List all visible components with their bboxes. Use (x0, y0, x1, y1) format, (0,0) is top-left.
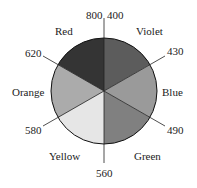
label-800: 800 (86, 9, 103, 21)
label-red: Red (55, 25, 73, 37)
label-green: Green (134, 150, 161, 162)
label-580: 580 (25, 124, 42, 136)
label-490: 490 (167, 124, 184, 136)
label-orange: Orange (12, 86, 44, 98)
label-620: 620 (25, 47, 42, 59)
label-violet: Violet (136, 25, 163, 37)
color-wheel-diagram: 800 400 430 490 560 580 620 Violet Blue … (0, 0, 197, 188)
label-yellow: Yellow (49, 150, 80, 162)
label-430: 430 (167, 45, 184, 57)
label-400: 400 (107, 9, 124, 21)
label-blue: Blue (162, 86, 183, 98)
label-560: 560 (96, 167, 113, 179)
